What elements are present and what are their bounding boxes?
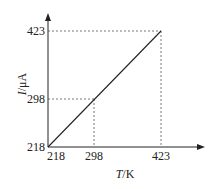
y-tick-218: 218 <box>27 140 45 154</box>
data-line <box>48 31 161 147</box>
x-tick-218: 218 <box>47 149 65 163</box>
y-axis-arrow-icon <box>45 13 51 21</box>
y-axis-label: I/μA <box>15 72 29 96</box>
y-tick-423: 423 <box>27 24 45 38</box>
x-axis-label: T/K <box>116 167 135 181</box>
x-tick-423: 423 <box>152 149 170 163</box>
chart: 423 298 218 218 298 423 T/K I/μA <box>0 0 213 189</box>
x-tick-298: 298 <box>85 149 103 163</box>
y-tick-298: 298 <box>27 92 45 106</box>
x-axis-arrow-icon <box>197 144 205 150</box>
